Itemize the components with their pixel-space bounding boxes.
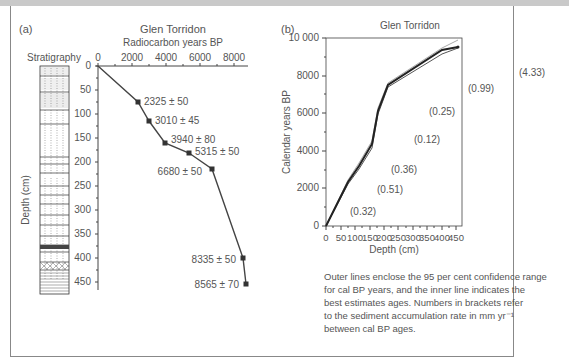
- svg-text:200: 200: [74, 156, 91, 167]
- svg-text:8000: 8000: [223, 52, 246, 63]
- svg-text:(0.32): (0.32): [350, 206, 376, 217]
- panel-a-y-axis: [95, 66, 98, 290]
- svg-text:6000: 6000: [297, 107, 320, 118]
- svg-text:(0.12): (0.12): [414, 134, 440, 145]
- figure-canvas: (a) Glen Torridon Radiocarbon years BP S…: [0, 0, 569, 362]
- panel-b-data-lines: [326, 40, 460, 226]
- panel-b-x-axis: [326, 226, 456, 230]
- panel-a-x-tick-labels: 0 2000 4000 6000 8000: [95, 52, 245, 63]
- svg-text:4000: 4000: [297, 145, 320, 156]
- svg-text:6680 ± 50: 6680 ± 50: [158, 166, 203, 177]
- svg-text:2000: 2000: [121, 52, 144, 63]
- svg-text:(0.25): (0.25): [429, 106, 455, 117]
- svg-text:0: 0: [313, 220, 319, 231]
- svg-text:10 000: 10 000: [288, 32, 319, 43]
- svg-text:450: 450: [74, 276, 91, 287]
- svg-text:6000: 6000: [189, 52, 212, 63]
- svg-text:2000: 2000: [297, 182, 320, 193]
- panel-b-rate-labels: (0.32) (0.51) (0.36) (0.12) (0.25) (0.99…: [350, 67, 545, 217]
- svg-text:5315 ± 50: 5315 ± 50: [195, 146, 240, 157]
- svg-text:(0.99): (0.99): [468, 83, 494, 94]
- stratigraphy-label: Stratigraphy: [27, 52, 81, 63]
- svg-text:50: 50: [80, 84, 92, 95]
- panel-a-subtitle: Radiocarbon years BP: [123, 37, 223, 48]
- svg-text:(0.51): (0.51): [377, 184, 403, 195]
- panel-a-x-axis: [96, 63, 248, 66]
- svg-text:3010 ± 45: 3010 ± 45: [155, 115, 200, 126]
- panel-a-y-axis-label: Depth (cm): [20, 175, 31, 224]
- panel-b-x-axis-label: Depth (cm): [369, 244, 418, 255]
- svg-text:0: 0: [323, 232, 328, 243]
- svg-text:for cal BP years, and the inne: for cal BP years, and the inner line ind…: [324, 284, 525, 295]
- svg-text:between cal BP ages.: between cal BP ages.: [324, 323, 416, 334]
- svg-text:8000: 8000: [297, 70, 320, 81]
- svg-text:250: 250: [390, 232, 406, 243]
- svg-text:(0.36): (0.36): [391, 164, 417, 175]
- panel-a-date-labels: 2325 ± 50 3010 ± 45 3940 ± 80 5315 ± 50 …: [144, 96, 240, 290]
- panel-b-plot-frame: [326, 38, 462, 226]
- panel-a-title: Glen Torridon: [140, 23, 206, 35]
- svg-text:8565 ± 70: 8565 ± 70: [195, 279, 240, 290]
- svg-text:8335 ± 50: 8335 ± 50: [192, 254, 237, 265]
- svg-text:100: 100: [74, 108, 91, 119]
- panel-b-x-tick-labels: 0 50 100 150 200 250 300 350 400 450: [323, 232, 464, 243]
- svg-text:50: 50: [336, 232, 347, 243]
- svg-text:350: 350: [74, 228, 91, 239]
- svg-text:0: 0: [85, 60, 91, 71]
- figure-caption: Outer lines enclose the 95 per cent conf…: [324, 271, 547, 334]
- svg-text:100: 100: [347, 232, 363, 243]
- svg-text:2325 ± 50: 2325 ± 50: [144, 96, 189, 107]
- svg-text:best estimates ages. Numbers i: best estimates ages. Numbers in brackets…: [324, 297, 523, 308]
- svg-text:(4.33): (4.33): [519, 67, 545, 78]
- svg-text:Outer lines enclose the 95 per: Outer lines enclose the 95 per cent conf…: [324, 271, 547, 282]
- panel-a-label: (a): [19, 23, 32, 35]
- svg-text:150: 150: [74, 132, 91, 143]
- svg-text:4000: 4000: [155, 52, 178, 63]
- svg-text:350: 350: [419, 232, 435, 243]
- svg-text:3940 ± 80: 3940 ± 80: [171, 134, 216, 145]
- svg-text:to the sediment accumulation r: to the sediment accumulation rate in mm …: [324, 310, 514, 321]
- panel-b-y-tick-labels: 0 2000 4000 6000 8000 10 000: [288, 32, 319, 231]
- svg-text:250: 250: [74, 180, 91, 191]
- panel-a-y-tick-labels: 0 50 100 150 200 250 300 350 400 450: [74, 60, 91, 287]
- svg-text:0: 0: [95, 52, 101, 63]
- panel-b-y-axis-label: Calendar years BP: [281, 90, 292, 174]
- svg-text:300: 300: [74, 204, 91, 215]
- panel-b-title: Glen Torridon: [380, 20, 440, 31]
- svg-text:450: 450: [448, 232, 464, 243]
- panel-b-y-axis: [322, 38, 326, 226]
- svg-text:400: 400: [74, 252, 91, 263]
- stratigraphy-column: [40, 66, 69, 294]
- upper-confidence-line: [326, 40, 458, 226]
